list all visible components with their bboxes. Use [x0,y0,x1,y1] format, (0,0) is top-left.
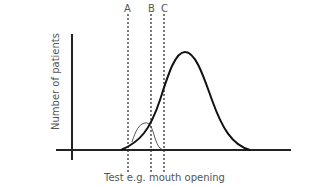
x-axis-label: Test e.g. mouth opening [104,172,225,183]
large-distribution-curve [121,52,250,150]
marker-label-c: C [161,3,168,14]
marker-label-b: B [148,3,155,14]
y-axis-label: Number of patients [50,33,61,130]
marker-label-a: A [124,3,131,14]
